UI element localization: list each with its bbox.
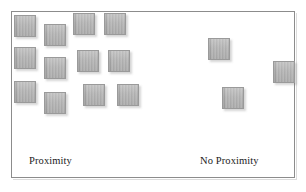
square — [77, 50, 99, 72]
no-proximity-label: No Proximity — [200, 155, 259, 166]
square — [104, 13, 126, 35]
square — [208, 38, 230, 60]
square — [44, 24, 66, 46]
square — [222, 87, 244, 109]
proximity-label: Proximity — [29, 155, 72, 166]
square — [44, 57, 66, 79]
square — [14, 15, 36, 37]
square — [83, 84, 105, 106]
square — [14, 81, 36, 103]
square — [108, 50, 130, 72]
square — [14, 47, 36, 69]
square — [117, 84, 139, 106]
square — [44, 92, 66, 114]
square — [273, 61, 295, 83]
proximity-diagram: Proximity No Proximity — [0, 0, 306, 192]
square — [73, 13, 95, 35]
